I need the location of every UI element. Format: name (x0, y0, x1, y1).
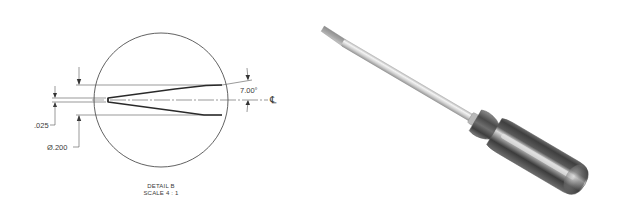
angle-dimension-label: 7.00° (240, 86, 258, 95)
detail-caption-title: DETAIL B (147, 183, 175, 189)
angle-arrow-bottom-head (246, 100, 251, 105)
screwdriver-render-panel (300, 0, 630, 221)
page-canvas: 7.00° ℄ Ø.200 .025 DETAIL B SCALE 4 : 1 (0, 0, 630, 221)
screwdriver-body (313, 15, 593, 199)
slot-arrow-top-head (53, 93, 57, 98)
angle-arrow-top-head (246, 75, 251, 81)
diameter-arrow-top-head (77, 79, 81, 85)
diameter-dimension-label: Ø.200 (47, 143, 67, 152)
screwdriver-render (300, 0, 630, 221)
detail-drawing: 7.00° ℄ Ø.200 .025 DETAIL B SCALE 4 : 1 (0, 0, 300, 221)
detail-drawing-panel: 7.00° ℄ Ø.200 .025 DETAIL B SCALE 4 : 1 (0, 0, 300, 221)
centerline-symbol: ℄ (269, 94, 277, 105)
detail-caption-scale: SCALE 4 : 1 (143, 190, 179, 196)
screwdriver-shaft (341, 39, 476, 123)
angle-extension-line (222, 80, 252, 85)
slot-dimension-label: .025 (34, 121, 49, 130)
